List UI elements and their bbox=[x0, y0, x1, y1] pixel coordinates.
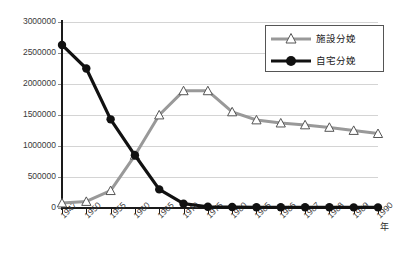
legend-item-facility[interactable]: 施設分娩 bbox=[266, 27, 385, 50]
data-point-marker bbox=[373, 129, 382, 138]
data-point-marker bbox=[349, 126, 358, 135]
x-axis-tick-label: 1960 bbox=[132, 201, 152, 221]
y-axis-tick-value: 1500000 bbox=[23, 110, 56, 119]
data-point-marker bbox=[252, 115, 261, 124]
gridline bbox=[62, 84, 378, 85]
gridline bbox=[62, 22, 378, 23]
x-axis-tick-label: 1986 bbox=[278, 201, 298, 221]
x-axis-tick-label: 1990 bbox=[375, 201, 395, 221]
data-point-marker bbox=[106, 115, 114, 123]
y-axis-tick-label: 500000 bbox=[0, 172, 56, 181]
data-point-marker bbox=[300, 120, 309, 129]
y-axis-tick-value: 500000 bbox=[28, 172, 56, 181]
y-axis-tick-label: 2500000 bbox=[0, 48, 56, 57]
legend-label-home: 自宅分娩 bbox=[316, 55, 356, 66]
x-axis-tick-label: 1970 bbox=[181, 201, 201, 221]
data-point-marker bbox=[131, 151, 139, 159]
x-axis-tick-label: 1989 bbox=[351, 201, 371, 221]
data-point-marker bbox=[276, 118, 285, 127]
data-point-marker bbox=[179, 86, 188, 95]
x-axis-tick-label: 1950 bbox=[83, 201, 103, 221]
data-point-marker bbox=[325, 123, 334, 132]
data-point-marker bbox=[130, 151, 139, 160]
triangle-open-icon bbox=[266, 29, 316, 49]
x-axis-tick-label: 1955 bbox=[108, 201, 128, 221]
gridline bbox=[62, 115, 378, 116]
y-axis-tick-label: 1500000 bbox=[0, 110, 56, 119]
circle-filled-icon bbox=[266, 51, 316, 71]
y-axis-tick-value: 2500000 bbox=[23, 48, 56, 57]
x-axis-tick-label: 1985 bbox=[253, 201, 273, 221]
gridline bbox=[62, 146, 378, 147]
legend-label-facility: 施設分娩 bbox=[316, 33, 356, 44]
x-axis-tick-label: 1965 bbox=[156, 201, 176, 221]
x-axis-unit-label: 年 bbox=[380, 222, 389, 232]
legend-item-home[interactable]: 自宅分娩 bbox=[266, 49, 385, 72]
y-axis-tick-label: 3000000 bbox=[0, 17, 56, 26]
x-axis-tick-label: 1987 bbox=[302, 201, 322, 221]
y-axis-tick-value: 2000000 bbox=[23, 79, 56, 88]
data-point-marker bbox=[155, 185, 163, 193]
y-axis-tick-value: 0 bbox=[51, 203, 56, 212]
x-axis-tick-label: 1975 bbox=[205, 201, 225, 221]
chart-legend: 施設分娩 自宅分娩 bbox=[265, 25, 384, 72]
gridline bbox=[62, 177, 378, 178]
data-point-marker bbox=[82, 64, 90, 72]
y-axis-tick-label: 0 bbox=[0, 203, 56, 212]
x-axis-tick-label: 1980 bbox=[229, 201, 249, 221]
y-axis-tick-label: 2000000 bbox=[0, 79, 56, 88]
y-axis-tick-label: 1000000 bbox=[0, 141, 56, 150]
x-axis-tick-label: 1988 bbox=[326, 201, 346, 221]
chart-container: 0500000100000015000002000000250000030000… bbox=[0, 0, 396, 253]
y-axis-line bbox=[61, 20, 63, 210]
data-point-marker bbox=[203, 86, 212, 95]
y-axis-tick-value: 1000000 bbox=[23, 141, 56, 150]
y-axis-tick-value: 3000000 bbox=[23, 17, 56, 26]
data-point-marker bbox=[106, 186, 115, 195]
